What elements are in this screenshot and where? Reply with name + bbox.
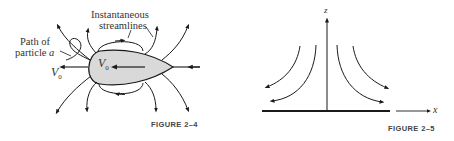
figure-2-5: z x FIGURE 2–5 bbox=[227, 0, 454, 141]
velocity-label-inside: V0 bbox=[98, 58, 109, 71]
x-axis-label: x bbox=[433, 104, 437, 115]
figure-2-5-caption: FIGURE 2–5 bbox=[388, 124, 435, 133]
streamlines-label-line1: Instantaneous bbox=[91, 9, 149, 20]
particle-path-label-line2: particle a bbox=[15, 47, 54, 58]
figure-2-4-caption: FIGURE 2–4 bbox=[151, 120, 198, 129]
z-axis-label: z bbox=[324, 5, 328, 16]
particle-name: a bbox=[49, 47, 54, 58]
figure-2-4: Instantaneous streamlines Path of partic… bbox=[0, 0, 227, 141]
streamlines-label-line2: streamlines bbox=[99, 20, 147, 31]
figure-2-5-drawing bbox=[227, 0, 454, 141]
particle-path-label-line1: Path of bbox=[20, 36, 50, 47]
velocity-label-outside: V0 bbox=[51, 67, 62, 80]
